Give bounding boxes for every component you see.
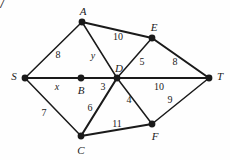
- graph-node-s: [22, 75, 29, 82]
- graph-node-f: [149, 121, 156, 128]
- edge-weight-a-d: y: [91, 51, 95, 61]
- node-label-b: B: [78, 85, 85, 96]
- graph-diagram: [0, 0, 230, 160]
- node-label-f: F: [152, 131, 159, 142]
- figure-canvas: 7 8x7y105861041193SABCDEFT: [0, 0, 230, 160]
- edge-weight-d-f: 4: [127, 95, 132, 105]
- node-label-c: C: [77, 145, 84, 156]
- edge-weight-s-a: 8: [56, 50, 61, 60]
- edge-weight-d-t: 10: [154, 82, 164, 92]
- graph-node-d: [114, 75, 121, 82]
- node-label-e: E: [151, 22, 158, 33]
- edge-weight-f-t: 9: [168, 95, 173, 105]
- graph-edge-d-f: [117, 78, 152, 124]
- graph-node-b: [78, 75, 85, 82]
- edge-weight-c-d: 6: [88, 103, 93, 113]
- graph-node-c: [78, 133, 85, 140]
- weight-label-3: 3: [101, 82, 106, 92]
- edge-weight-e-t: 8: [173, 57, 178, 67]
- graph-edge-s-a: [25, 22, 82, 78]
- edge-weight-s-d: x: [55, 82, 59, 92]
- node-label-d: D: [115, 63, 123, 74]
- graph-edge-a-d: [82, 22, 117, 78]
- graph-node-t: [206, 75, 213, 82]
- node-label-a: A: [80, 6, 87, 17]
- graph-node-a: [79, 19, 86, 26]
- graph-edge-s-c: [25, 78, 81, 136]
- edge-weight-a-e: 10: [113, 32, 123, 42]
- edge-weight-s-c: 7: [42, 108, 47, 118]
- edge-weight-e-d: 5: [140, 57, 145, 67]
- node-label-t: T: [217, 71, 223, 82]
- edge-weight-c-f: 11: [112, 119, 122, 129]
- graph-node-e: [149, 35, 156, 42]
- graph-edge-e-t: [152, 38, 209, 78]
- node-label-s: S: [11, 71, 17, 82]
